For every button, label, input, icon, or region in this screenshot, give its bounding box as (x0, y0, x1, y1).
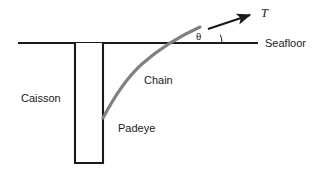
chain-curve (103, 27, 200, 118)
caisson-label: Caisson (21, 92, 61, 104)
caisson-body (75, 43, 103, 163)
tension-arrow (208, 15, 250, 29)
caisson-chain-diagram: Seafloor Caisson Chain Padeye θ T (0, 0, 324, 176)
tension-label: T (261, 6, 269, 20)
seafloor-label: Seafloor (265, 37, 306, 49)
angle-theta-label: θ (196, 30, 201, 42)
figure-canvas: Seafloor Caisson Chain Padeye θ T (0, 0, 324, 176)
angle-arc (220, 35, 222, 43)
chain-label: Chain (144, 74, 173, 86)
padeye-label: Padeye (118, 122, 155, 134)
